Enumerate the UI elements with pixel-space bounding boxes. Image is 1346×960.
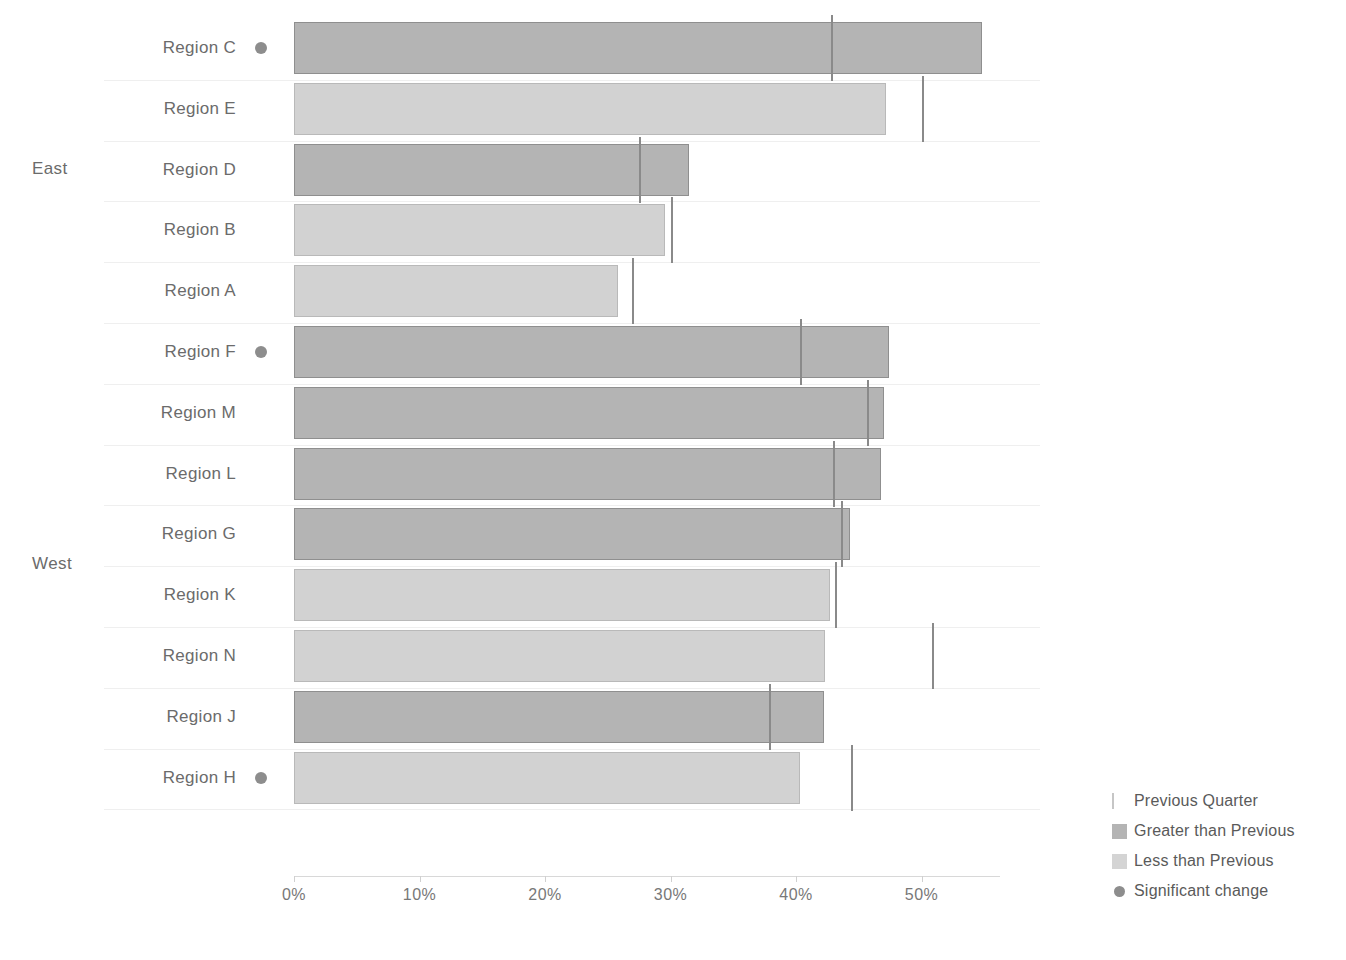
x-tick bbox=[420, 876, 421, 882]
bar-region-d[interactable] bbox=[294, 144, 689, 196]
row-separator bbox=[104, 505, 1040, 506]
x-tick bbox=[545, 876, 546, 882]
bar-row[interactable]: Region N bbox=[0, 630, 1346, 691]
x-tick-label: 40% bbox=[779, 886, 813, 904]
legend-item[interactable]: Previous Quarter bbox=[1108, 786, 1346, 816]
x-tick-label: 10% bbox=[403, 886, 437, 904]
bar-row[interactable]: Region A bbox=[0, 265, 1346, 326]
bar-region-l[interactable] bbox=[294, 448, 881, 500]
row-label-region-f: Region F bbox=[104, 342, 236, 362]
row-label-region-h: Region H bbox=[104, 768, 236, 788]
row-label-region-l: Region L bbox=[104, 464, 236, 484]
row-separator bbox=[104, 384, 1040, 385]
bar-row[interactable]: Region M bbox=[0, 387, 1346, 448]
row-label-region-g: Region G bbox=[104, 524, 236, 544]
previous-quarter-reference-line bbox=[800, 319, 802, 385]
row-label-region-e: Region E bbox=[104, 99, 236, 119]
row-label-region-c: Region C bbox=[104, 38, 236, 58]
x-axis-line bbox=[294, 876, 1000, 877]
legend-item[interactable]: Less than Previous bbox=[1108, 846, 1346, 876]
bar-row[interactable]: Region G bbox=[0, 508, 1346, 569]
bar-row[interactable]: Region J bbox=[0, 691, 1346, 752]
bar-region-a[interactable] bbox=[294, 265, 618, 317]
previous-quarter-reference-line bbox=[769, 684, 771, 750]
x-tick bbox=[671, 876, 672, 882]
x-tick-label: 0% bbox=[282, 886, 306, 904]
row-separator bbox=[104, 80, 1040, 81]
row-separator bbox=[104, 323, 1040, 324]
legend-label: Less than Previous bbox=[1134, 852, 1274, 870]
legend-less-swatch-icon bbox=[1112, 854, 1127, 869]
row-label-region-j: Region J bbox=[104, 707, 236, 727]
legend-mark bbox=[1108, 824, 1134, 839]
bar-row[interactable]: Region B bbox=[0, 204, 1346, 265]
row-separator bbox=[104, 749, 1040, 750]
row-label-region-m: Region M bbox=[104, 403, 236, 423]
x-tick bbox=[922, 876, 923, 882]
bar-row[interactable]: Region C bbox=[0, 22, 1346, 83]
previous-quarter-reference-line bbox=[932, 623, 934, 689]
x-tick-label: 30% bbox=[654, 886, 688, 904]
row-label-region-b: Region B bbox=[104, 220, 236, 240]
legend-mark bbox=[1108, 886, 1134, 897]
significant-change-dot bbox=[255, 772, 267, 784]
previous-quarter-reference-line bbox=[632, 258, 634, 324]
legend-mark bbox=[1108, 793, 1134, 809]
row-separator bbox=[104, 627, 1040, 628]
legend-greater-swatch-icon bbox=[1112, 824, 1127, 839]
significant-change-dot bbox=[255, 42, 267, 54]
row-separator bbox=[104, 262, 1040, 263]
previous-quarter-reference-line bbox=[671, 197, 673, 263]
previous-quarter-reference-line bbox=[867, 380, 869, 446]
previous-quarter-reference-line bbox=[841, 501, 843, 567]
row-separator bbox=[104, 809, 1040, 810]
legend-label: Greater than Previous bbox=[1134, 822, 1295, 840]
previous-quarter-reference-line bbox=[831, 15, 833, 81]
row-separator bbox=[104, 445, 1040, 446]
bar-region-m[interactable] bbox=[294, 387, 884, 439]
x-tick-label: 20% bbox=[528, 886, 562, 904]
bar-region-b[interactable] bbox=[294, 204, 665, 256]
previous-quarter-reference-line bbox=[639, 137, 641, 203]
legend-item[interactable]: Greater than Previous bbox=[1108, 816, 1346, 846]
legend-item[interactable]: Significant change bbox=[1108, 876, 1346, 906]
legend-reference-line-icon bbox=[1112, 793, 1114, 809]
legend-label: Significant change bbox=[1134, 882, 1268, 900]
row-label-region-d: Region D bbox=[104, 160, 236, 180]
previous-quarter-reference-line bbox=[833, 441, 835, 507]
legend-label: Previous Quarter bbox=[1134, 792, 1258, 810]
row-label-region-a: Region A bbox=[104, 281, 236, 301]
bar-row[interactable]: Region L bbox=[0, 448, 1346, 509]
bar-region-e[interactable] bbox=[294, 83, 886, 135]
bar-row[interactable]: Region F bbox=[0, 326, 1346, 387]
bar-region-g[interactable] bbox=[294, 508, 850, 560]
bar-region-c[interactable] bbox=[294, 22, 982, 74]
previous-quarter-reference-line bbox=[835, 562, 837, 628]
x-tick-label: 50% bbox=[905, 886, 939, 904]
bar-region-h[interactable] bbox=[294, 752, 800, 804]
row-label-region-n: Region N bbox=[104, 646, 236, 666]
x-tick bbox=[294, 876, 295, 882]
legend-significant-dot-icon bbox=[1114, 886, 1125, 897]
row-separator bbox=[104, 141, 1040, 142]
row-separator bbox=[104, 201, 1040, 202]
previous-quarter-reference-line bbox=[851, 745, 853, 811]
chart-legend: Previous QuarterGreater than PreviousLes… bbox=[1108, 786, 1346, 906]
row-separator bbox=[104, 566, 1040, 567]
previous-quarter-reference-line bbox=[922, 76, 924, 142]
bar-row[interactable]: Region E bbox=[0, 83, 1346, 144]
bar-region-n[interactable] bbox=[294, 630, 825, 682]
chart-canvas: East West Region CRegion ERegion DRegion… bbox=[0, 0, 1346, 960]
row-label-region-k: Region K bbox=[104, 585, 236, 605]
bar-row[interactable]: Region K bbox=[0, 569, 1346, 630]
legend-mark bbox=[1108, 854, 1134, 869]
bar-row[interactable]: Region D bbox=[0, 144, 1346, 205]
x-tick bbox=[796, 876, 797, 882]
significant-change-dot bbox=[255, 346, 267, 358]
row-separator bbox=[104, 688, 1040, 689]
bar-region-k[interactable] bbox=[294, 569, 830, 621]
bar-region-j[interactable] bbox=[294, 691, 824, 743]
